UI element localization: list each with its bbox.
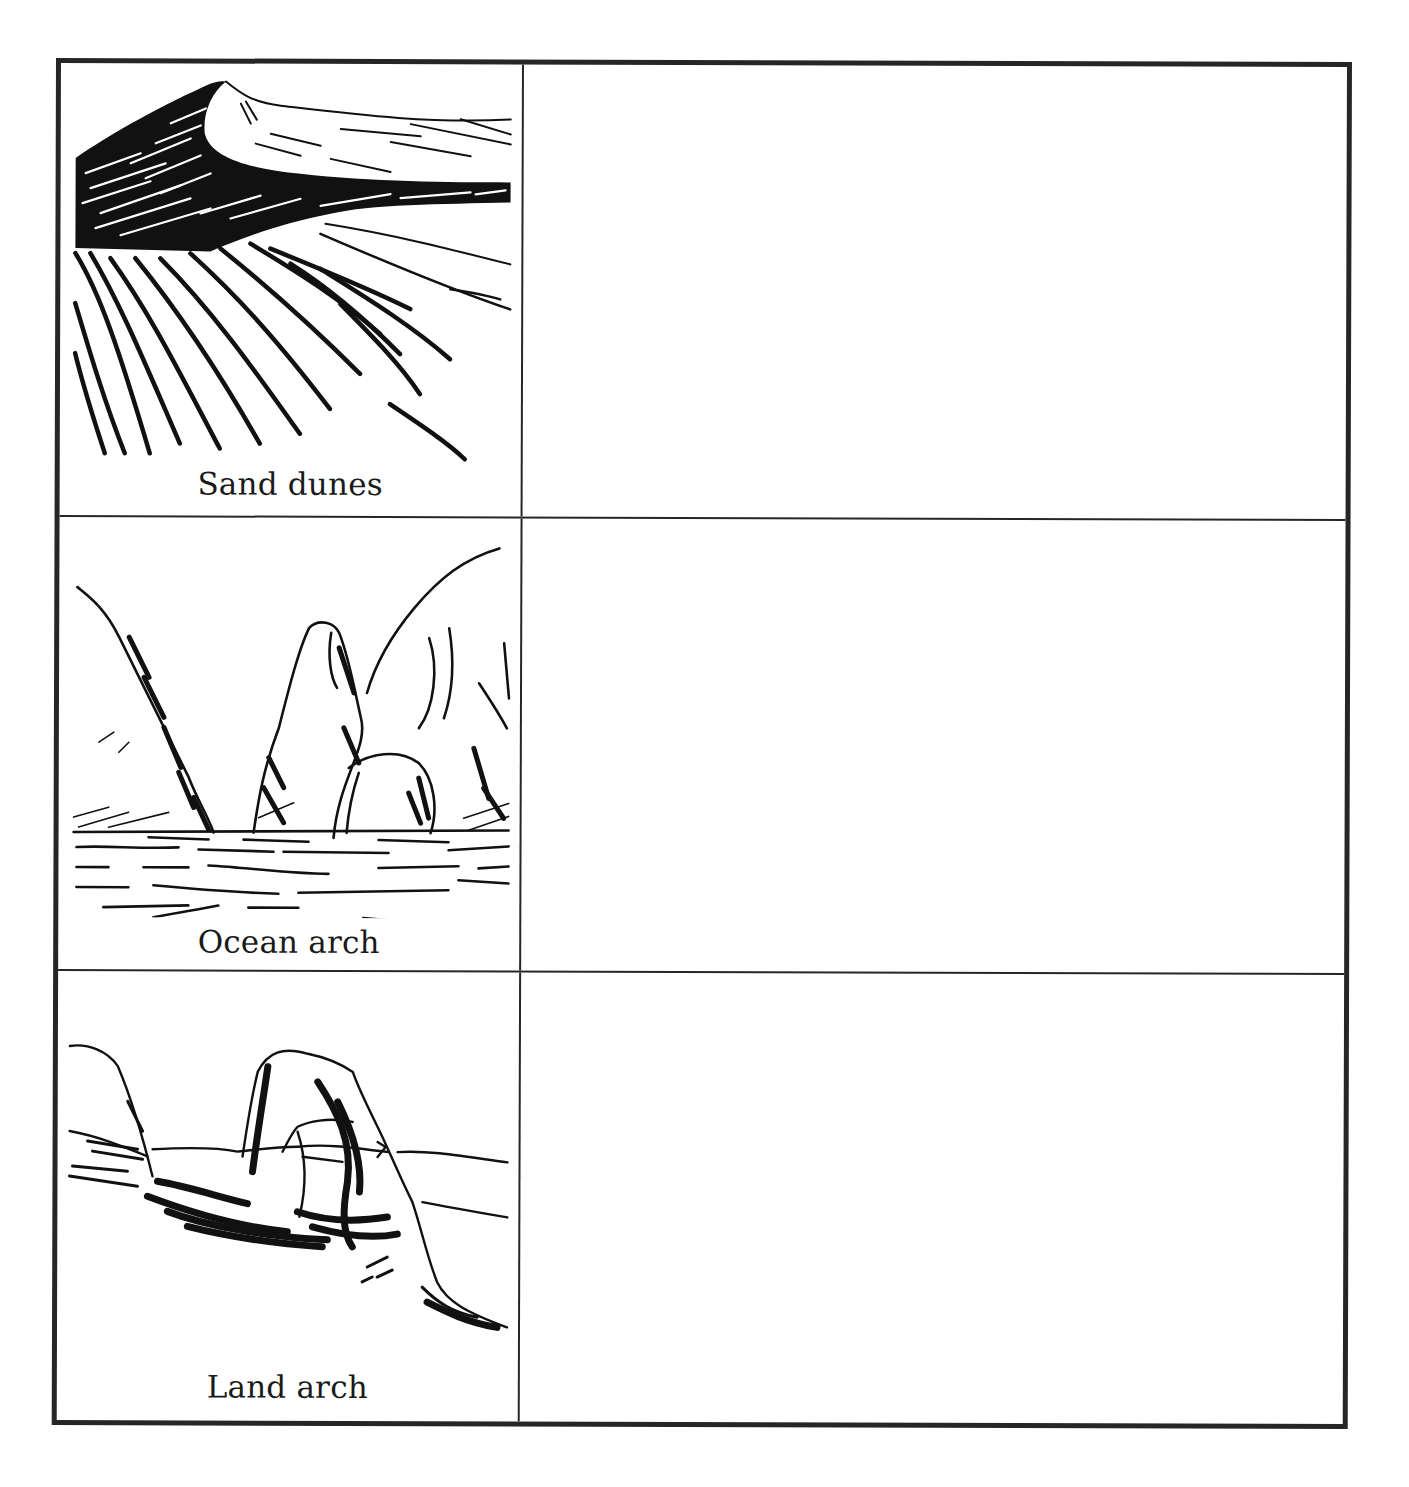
land-arch-drawing-icon [67,971,513,1372]
table-row-sand-dunes: Sand dunes [60,63,1347,521]
answer-cell-ocean-arch[interactable] [521,518,1345,973]
table-row-ocean-arch: Ocean arch [58,517,1345,975]
ocean-arch-drawing-icon [68,517,514,918]
illustration-cell-sand-dunes: Sand dunes [60,63,524,516]
table-row-land-arch: Land arch [57,971,1344,1424]
illustration-cell-ocean-arch: Ocean arch [58,517,522,970]
illustration-label: Ocean arch [58,923,519,960]
answer-cell-sand-dunes[interactable] [523,64,1347,519]
answer-cell-land-arch[interactable] [520,972,1344,1424]
sand-dunes-drawing-icon [70,63,516,464]
illustration-cell-land-arch: Land arch [57,971,521,1421]
illustration-label: Sand dunes [60,465,521,502]
landforms-worksheet-table: Sand dunes [52,58,1352,1429]
illustration-label: Land arch [57,1368,518,1405]
